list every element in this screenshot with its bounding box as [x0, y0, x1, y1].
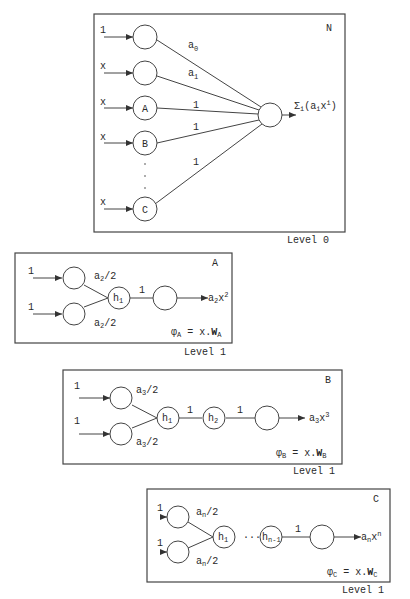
node-label: A — [142, 104, 148, 115]
edge — [157, 40, 261, 107]
output-label: a2x2 — [208, 291, 228, 305]
panel-b: B Level 1 1 1 h1 h2 a3/2 a3/2 1 1 a3x3 φ… — [63, 370, 342, 477]
neuron-node — [63, 303, 85, 325]
diagram-canvas: N Level 0 1 x x x x A B C — [0, 0, 410, 599]
panel-c-corner-label: C — [373, 494, 379, 505]
edge — [84, 298, 108, 307]
input-label: 1 — [28, 302, 34, 313]
edge — [188, 537, 213, 548]
panel-c: C Level 1 1 1 h1 ··· hn-1 an/2 an/2 1 an… — [147, 489, 390, 596]
panel-c-level-label: Level 1 — [342, 585, 384, 596]
output-neuron-node — [255, 406, 279, 430]
weight-label: an/2 — [196, 507, 218, 519]
input-label: 1 — [157, 503, 163, 514]
output-neuron-node — [258, 103, 282, 127]
edge — [132, 405, 157, 418]
input-label: x — [100, 97, 106, 108]
neuron-node — [110, 423, 132, 445]
input-label: x — [100, 197, 106, 208]
panel-a-corner-label: A — [212, 258, 218, 269]
weight-label: a2/2 — [94, 318, 116, 330]
weight-label: a3/2 — [136, 437, 158, 449]
edge — [132, 418, 157, 428]
input-label: x — [100, 132, 106, 143]
weight-label: 1 — [295, 524, 301, 535]
hidden-ellipsis: ··· — [243, 532, 261, 543]
panel-a-level-label: Level 1 — [184, 347, 226, 358]
edge — [157, 108, 258, 114]
weight-label: a3/2 — [136, 385, 158, 397]
neuron-node — [167, 541, 189, 563]
neuron-node — [63, 267, 85, 289]
input-label: 1 — [74, 381, 80, 392]
edge — [155, 124, 262, 204]
panel-b-corner-label: B — [325, 375, 331, 386]
weight-label: 1 — [193, 100, 199, 111]
phi-formula: φC = x.WC — [327, 567, 377, 579]
phi-formula: φA = x.WA — [171, 327, 222, 339]
panel-b-level-label: Level 1 — [293, 466, 335, 477]
neuron-node — [133, 61, 157, 85]
weight-label: 1 — [139, 285, 145, 296]
neuron-node — [167, 506, 189, 528]
edge — [157, 76, 259, 110]
panel-n-level-label: Level 0 — [287, 235, 329, 246]
phi-formula: φB = x.WB — [276, 448, 326, 460]
node-label: C — [142, 205, 148, 216]
input-label: 1 — [157, 538, 163, 549]
output-label: anxn — [361, 530, 381, 544]
edge — [84, 285, 108, 298]
panel-n-border — [94, 14, 345, 232]
panel-n-corner-label: N — [326, 23, 332, 34]
edge — [157, 120, 259, 143]
input-label: x — [100, 61, 106, 72]
input-label: 1 — [100, 25, 106, 36]
weight-label: a1 — [188, 68, 198, 81]
neuron-node — [133, 25, 157, 49]
output-neuron-node — [153, 286, 177, 310]
weight-label: 1 — [237, 405, 243, 416]
weight-label: 1 — [193, 122, 199, 133]
output-label: Σi(aixi) — [294, 99, 337, 113]
weight-label: 1 — [193, 157, 199, 168]
input-label: 1 — [74, 416, 80, 427]
node-label: B — [142, 139, 148, 150]
panel-a: A Level 1 1 1 h1 a2/2 a2/2 1 a2x2 φA = x… — [15, 253, 232, 358]
input-label: 1 — [28, 266, 34, 277]
neuron-node — [110, 387, 132, 409]
panel-n: N Level 0 1 x x x x A B C — [94, 14, 345, 246]
output-neuron-node — [310, 525, 334, 549]
weight-label: a2/2 — [94, 271, 116, 283]
vertical-ellipsis — [144, 163, 146, 189]
output-label: a3x3 — [309, 411, 329, 425]
edge — [188, 522, 213, 537]
weight-label: 1 — [187, 405, 193, 416]
weight-label: a0 — [188, 40, 198, 53]
weight-label: an/2 — [196, 556, 218, 568]
